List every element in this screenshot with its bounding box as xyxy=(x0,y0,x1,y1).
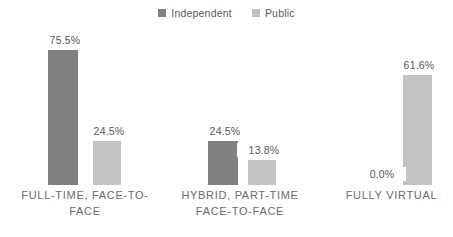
value-label-public-fully-virtual: 61.6% xyxy=(392,58,446,72)
bar-public-hybrid[interactable] xyxy=(248,160,276,185)
value-label-independent-hybrid: 24.5% xyxy=(198,124,252,138)
category-label-hybrid: HYBRID, PART-TIME FACE-TO-FACE xyxy=(160,188,320,220)
category-label-hybrid-line2: FACE-TO-FACE xyxy=(160,204,320,220)
value-label-public-hybrid: 13.8% xyxy=(237,143,291,157)
category-axis: FULL-TIME, FACE-TO- FACE HYBRID, PART-TI… xyxy=(0,188,453,237)
value-label-public-full-time: 24.5% xyxy=(82,124,136,138)
category-label-hybrid-line1: HYBRID, PART-TIME xyxy=(160,188,320,204)
category-label-fully-virtual-line1: FULLY VIRTUAL xyxy=(330,188,453,204)
bar-independent-hybrid[interactable] xyxy=(208,141,238,185)
category-label-fully-virtual: FULLY VIRTUAL xyxy=(330,188,453,204)
bar-public-fully-virtual[interactable] xyxy=(403,75,432,185)
value-label-independent-fully-virtual: 0.0% xyxy=(358,167,406,181)
category-label-full-time: FULL-TIME, FACE-TO- FACE xyxy=(0,188,170,220)
value-label-independent-full-time: 75.5% xyxy=(38,33,92,47)
bar-public-full-time[interactable] xyxy=(93,141,121,185)
bar-chart: Independent Public 75.5% 24.5% 24.5% 13.… xyxy=(0,0,453,237)
bar-independent-full-time[interactable] xyxy=(48,50,78,185)
category-label-full-time-line2: FACE xyxy=(0,204,170,220)
category-label-full-time-line1: FULL-TIME, FACE-TO- xyxy=(0,188,170,204)
